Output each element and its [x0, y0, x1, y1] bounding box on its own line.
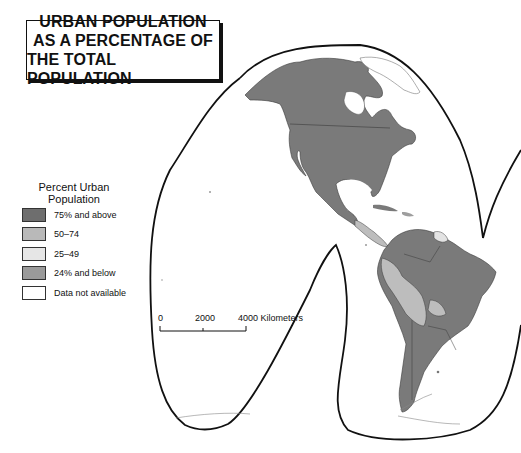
title-line-2: AS A PERCENTAGE OF	[33, 31, 213, 50]
legend-label: Data not available	[54, 288, 126, 298]
scale-bar-line	[158, 325, 258, 333]
scale-bar: 0 2000 4000 Kilometers	[158, 313, 318, 335]
legend-swatch-50-74	[22, 227, 46, 241]
legend-swatch-75-above	[22, 208, 46, 222]
legend-item: 75% and above	[22, 205, 162, 225]
scale-tick-4000: 4000 Kilometers	[238, 313, 303, 323]
legend: Percent Urban Population 75% and above 5…	[22, 181, 162, 303]
legend-swatch-25-49	[22, 247, 46, 261]
title-line-1: URBAN POPULATION	[39, 12, 207, 31]
galapagos	[365, 244, 367, 246]
legend-title: Percent Urban Population	[22, 181, 126, 205]
central-america	[355, 220, 388, 247]
title-line-3: THE TOTAL POPULATION	[27, 50, 219, 88]
legend-label: 25–49	[54, 249, 79, 259]
hispaniola	[402, 212, 414, 216]
map-title-box: URBAN POPULATION AS A PERCENTAGE OF THE …	[26, 20, 220, 80]
legend-title-line-2: Population	[22, 193, 126, 205]
legend-title-line-1: Percent Urban	[22, 181, 126, 193]
legend-swatch-no-data	[22, 286, 46, 300]
hawaii	[209, 191, 211, 193]
legend-label: 24% and below	[54, 268, 116, 278]
legend-swatch-24-below	[22, 266, 46, 280]
legend-label: 75% and above	[54, 210, 117, 220]
legend-item: 25–49	[22, 244, 162, 264]
cuba	[373, 205, 398, 211]
scale-tick-2000: 2000	[195, 313, 215, 323]
falklands	[437, 371, 440, 374]
scale-tick-0: 0	[158, 313, 163, 323]
legend-item: 50–74	[22, 225, 162, 245]
south-america	[377, 229, 496, 412]
legend-label: 50–74	[54, 229, 79, 239]
legend-item: 24% and below	[22, 264, 162, 284]
legend-item: Data not available	[22, 283, 162, 303]
north-america	[245, 58, 416, 226]
